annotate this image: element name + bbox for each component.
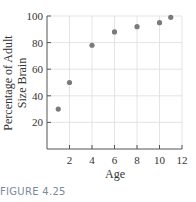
scatter-chart: 24681012 20406080100 Age Percentage of A… — [0, 0, 196, 186]
y-tick-labels: 20406080100 — [27, 10, 44, 128]
figure-caption: FIGURE 4.25 — [0, 186, 66, 197]
y-tick-label: 40 — [32, 90, 44, 102]
y-tick-label: 100 — [27, 10, 44, 22]
y-tick-label: 80 — [32, 37, 44, 49]
x-tick-labels: 24681012 — [67, 154, 188, 166]
x-axis-label: Age — [105, 167, 125, 181]
x-tick-label: 4 — [89, 154, 95, 166]
x-tick-label: 12 — [177, 154, 188, 166]
data-point — [67, 80, 72, 85]
y-tick-label: 60 — [32, 63, 44, 75]
data-point — [89, 43, 94, 48]
y-axis-label-line2: Size Brain — [15, 58, 29, 108]
y-axis-label-line1: Percentage of Adult — [1, 35, 15, 131]
x-tick-label: 10 — [154, 154, 166, 166]
x-tick-label: 6 — [112, 154, 118, 166]
data-point — [134, 24, 139, 29]
x-tick-label: 8 — [134, 154, 140, 166]
y-tick-label: 20 — [32, 116, 44, 128]
data-point — [112, 29, 117, 34]
x-tick-label: 2 — [67, 154, 73, 166]
data-point — [56, 107, 61, 112]
data-point — [168, 15, 173, 20]
data-point — [157, 20, 162, 25]
